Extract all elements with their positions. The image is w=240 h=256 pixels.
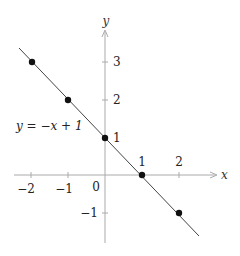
point-2-neg1	[176, 210, 182, 216]
y-tick-label-2: 2	[113, 93, 121, 107]
x-tick-label-2: 2	[175, 155, 183, 169]
point-0-1	[102, 135, 108, 141]
x-tick-label-neg2: −2	[17, 182, 35, 196]
origin-label: 0	[92, 180, 100, 194]
y-axis-label: y	[102, 14, 110, 28]
x-axis-label: x	[221, 168, 228, 182]
point-neg2-3	[29, 59, 35, 65]
chart-canvas: −2 −1 0 1 2 3 2 1 −1 x y y = −x + 1	[0, 0, 240, 256]
point-neg1-2	[65, 97, 71, 103]
x-tick-label-1: 1	[138, 155, 146, 169]
point-1-0	[139, 172, 145, 178]
x-tick-label-neg1: −1	[55, 182, 73, 196]
equation-label: y = −x + 1	[15, 119, 83, 133]
y-tick-label-1: 1	[113, 131, 121, 145]
y-tick-label-3: 3	[113, 55, 121, 69]
function-line	[19, 48, 199, 236]
y-tick-label-neg1: −1	[80, 206, 98, 220]
